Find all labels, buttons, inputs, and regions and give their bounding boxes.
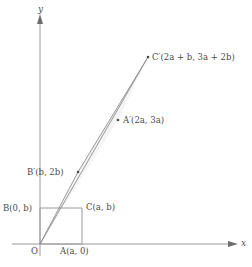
point-label-A: A(a, 0) [60, 247, 89, 256]
point-label-B: B(0, b) [3, 204, 32, 213]
y-axis-label: y [38, 5, 43, 14]
diagram-canvas [0, 0, 252, 267]
y-axis-arrow [37, 14, 43, 24]
point-label-B-prime: B′(b, 2b) [27, 168, 64, 177]
point-label-C: C(a, b) [86, 203, 115, 212]
ray-O-to-Cprime-via-Aprime [40, 57, 148, 244]
point-marker-Bprime [77, 171, 80, 174]
geometry-figure: y x O A(a, 0) B(0, b) C(a, b) B′(b, 2b) … [0, 0, 252, 267]
point-label-origin: O [31, 247, 38, 256]
x-axis-arrow [228, 241, 238, 247]
x-axis-label: x [241, 239, 246, 248]
point-marker-Cprime [147, 56, 150, 59]
point-marker-Aprime [117, 119, 120, 122]
point-label-A-prime: A′(2a, 3a) [123, 116, 164, 125]
point-label-C-prime: C′(2a + b, 3a + 2b) [152, 53, 235, 62]
